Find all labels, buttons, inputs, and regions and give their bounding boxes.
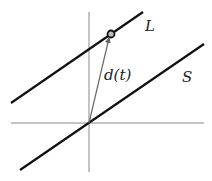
label-d-t: d(t)	[104, 66, 131, 84]
line-l	[11, 12, 143, 103]
point-on-l	[108, 31, 115, 38]
label-l: L	[144, 17, 155, 35]
line-s	[20, 44, 204, 170]
label-s: S	[182, 68, 192, 86]
diagram-canvas: L S d(t)	[0, 0, 212, 181]
